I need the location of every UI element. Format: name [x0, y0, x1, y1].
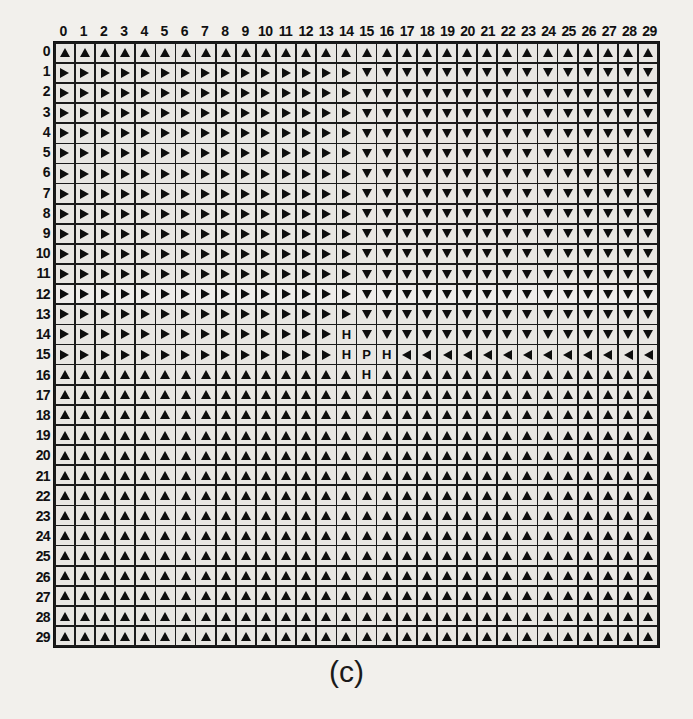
grid-cell-6-17 [398, 164, 417, 183]
arrow-right-icon [121, 128, 130, 138]
arrow-down-icon [422, 129, 432, 138]
arrow-up-icon [281, 471, 291, 480]
grid-cell-3-4 [136, 104, 155, 123]
row-header-10: 10 [14, 243, 52, 263]
grid-cell-21-23 [518, 466, 537, 485]
grid-cell-14-4 [136, 325, 155, 344]
grid-cell-25-20 [458, 546, 477, 565]
grid-cell-18-2 [96, 406, 115, 425]
grid-cell-8-9 [237, 205, 256, 224]
arrow-up-icon [502, 48, 512, 57]
arrow-right-icon [282, 88, 291, 98]
grid-cell-14-24 [538, 325, 557, 344]
grid-cell-19-29 [639, 426, 658, 445]
grid-cell-8-27 [599, 205, 618, 224]
grid-cell-17-18 [418, 386, 437, 405]
grid-cell-5-29 [639, 144, 658, 163]
arrow-up-icon [321, 431, 331, 440]
arrow-up-icon [502, 390, 512, 399]
arrow-up-icon [120, 48, 130, 57]
grid-cell-18-1 [76, 406, 95, 425]
grid-cell-2-24 [538, 84, 557, 103]
grid-cell-28-19 [438, 607, 457, 626]
grid-cell-25-27 [599, 546, 618, 565]
arrow-right-icon [261, 309, 270, 319]
grid-cell-6-12 [297, 164, 316, 183]
arrow-down-icon [502, 169, 512, 178]
arrow-right-icon [121, 269, 130, 279]
grid-cell-12-28 [619, 285, 638, 304]
grid-cell-11-8 [217, 265, 236, 284]
grid-cell-19-27 [599, 426, 618, 445]
arrow-right-icon [282, 329, 291, 339]
grid-cell-24-3 [116, 526, 135, 545]
grid-cell-29-14 [337, 627, 356, 646]
grid-cell-2-21 [478, 84, 497, 103]
grid-cell-25-11 [277, 546, 296, 565]
grid-cell-18-26 [579, 406, 598, 425]
row-header-26: 26 [14, 567, 52, 587]
arrow-down-icon [502, 129, 512, 138]
arrow-up-icon [623, 511, 633, 520]
arrow-down-icon [623, 330, 633, 339]
grid-cell-17-9 [237, 386, 256, 405]
grid-cell-0-2 [96, 44, 115, 63]
grid-cell-22-4 [136, 486, 155, 505]
grid-cell-27-9 [237, 587, 256, 606]
arrow-up-icon [502, 471, 512, 480]
arrow-up-icon [241, 390, 251, 399]
arrow-up-icon [643, 612, 653, 621]
arrow-right-icon [80, 269, 89, 279]
grid-cell-29-7 [196, 627, 215, 646]
grid-cell-23-19 [438, 506, 457, 525]
grid-cell-16-3 [116, 365, 135, 384]
grid-cell-6-27 [599, 164, 618, 183]
grid-cell-6-26 [579, 164, 598, 183]
grid-cell-3-28 [619, 104, 638, 123]
arrow-down-icon [402, 290, 412, 299]
grid-cell-7-22 [498, 184, 517, 203]
grid-cell-9-20 [458, 225, 477, 244]
arrow-down-icon [563, 270, 573, 279]
arrow-up-icon [563, 48, 573, 57]
arrow-up-icon [281, 410, 291, 419]
grid-cell-18-7 [196, 406, 215, 425]
arrow-right-icon [221, 189, 230, 199]
arrow-up-icon [120, 431, 130, 440]
arrow-right-icon [241, 269, 250, 279]
grid-cell-9-10 [257, 225, 276, 244]
arrow-down-icon [623, 129, 633, 138]
grid-cell-15-11 [277, 345, 296, 364]
grid-cell-11-19 [438, 265, 457, 284]
arrow-down-icon [563, 229, 573, 238]
arrow-up-icon [221, 632, 231, 641]
column-header-27: 27 [599, 22, 619, 41]
grid-cell-19-11 [277, 426, 296, 445]
grid-cell-10-13 [317, 245, 336, 264]
grid-cell-18-23 [518, 406, 537, 425]
arrow-right-icon [342, 128, 351, 138]
arrow-right-icon [181, 88, 190, 98]
grid-cell-25-26 [579, 546, 598, 565]
arrow-right-icon [241, 289, 250, 299]
grid-cell-26-23 [518, 567, 537, 586]
grid-cell-22-23 [518, 486, 537, 505]
grid-cell-8-21 [478, 205, 497, 224]
grid-cell-24-18 [418, 526, 437, 545]
arrow-up-icon [301, 390, 311, 399]
grid-cell-19-12 [297, 426, 316, 445]
grid-cell-9-7 [196, 225, 215, 244]
grid-cell-5-22 [498, 144, 517, 163]
grid-cell-25-24 [538, 546, 557, 565]
arrow-right-icon [282, 309, 291, 319]
grid-cell-11-0 [56, 265, 75, 284]
arrow-down-icon [442, 169, 452, 178]
grid-cell-12-7 [196, 285, 215, 304]
arrow-up-icon [120, 632, 130, 641]
grid-cell-15-28 [619, 345, 638, 364]
grid-cell-8-20 [458, 205, 477, 224]
grid-cell-8-6 [176, 205, 195, 224]
arrow-right-icon [80, 128, 89, 138]
grid-cell-11-12 [297, 265, 316, 284]
grid-cell-6-28 [619, 164, 638, 183]
